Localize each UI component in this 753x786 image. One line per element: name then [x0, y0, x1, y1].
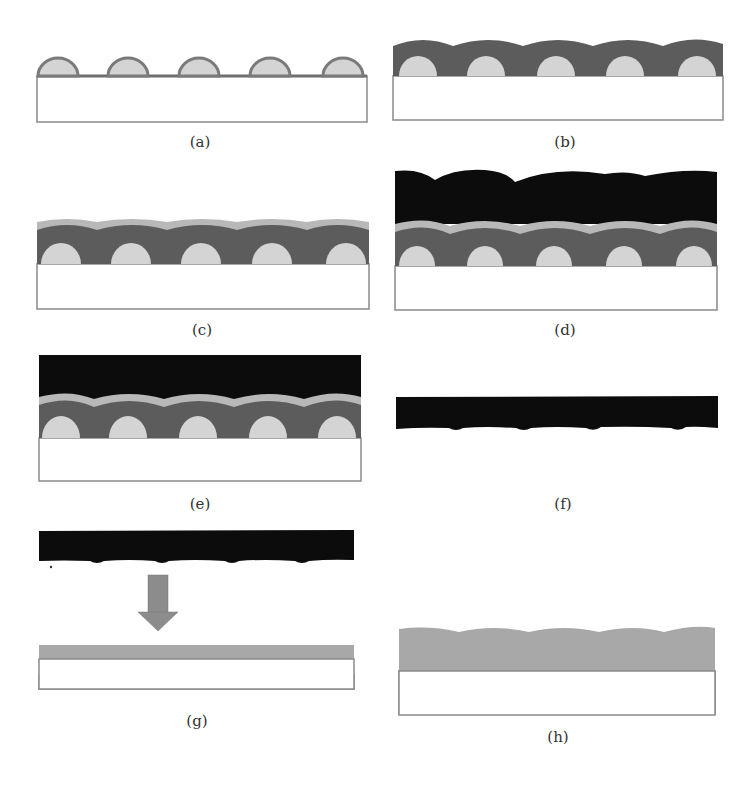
spheres — [38, 58, 363, 76]
panel-a — [35, 60, 370, 125]
panel-e-diagram — [39, 355, 369, 485]
panel-a-diagram — [35, 60, 370, 125]
panel-a-label: (a) — [170, 133, 230, 151]
black-film — [39, 530, 354, 563]
panel-e — [39, 355, 369, 485]
substrate — [39, 438, 361, 481]
substrate — [37, 76, 367, 122]
panel-e-label: (e) — [170, 495, 230, 513]
substrate — [395, 266, 717, 310]
panel-h-substrate — [399, 671, 729, 721]
panel-f — [396, 396, 726, 436]
panel-b — [393, 40, 728, 125]
black-film — [396, 396, 718, 430]
substrate — [37, 264, 369, 309]
black-layer — [395, 170, 717, 224]
black-layer — [39, 355, 361, 400]
panel-c-label: (c) — [172, 321, 232, 339]
panel-d-diagram — [395, 168, 730, 313]
panel-c-diagram — [37, 218, 372, 313]
panel-b-label: (b) — [535, 133, 595, 151]
textured-gray-layer — [399, 627, 715, 671]
panel-f-diagram — [396, 396, 726, 436]
panel-d-label: (d) — [535, 321, 595, 339]
panel-d — [395, 168, 730, 313]
debris-dot — [50, 566, 52, 568]
panel-g-substrate-bottom — [39, 675, 359, 695]
substrate — [393, 76, 723, 120]
down-arrow-icon — [138, 575, 178, 631]
panel-c — [37, 218, 372, 313]
panel-g-label: (g) — [167, 712, 227, 730]
panel-h-label: (h) — [528, 728, 588, 746]
panel-b-diagram — [393, 40, 728, 125]
panel-f-label: (f) — [533, 495, 593, 513]
